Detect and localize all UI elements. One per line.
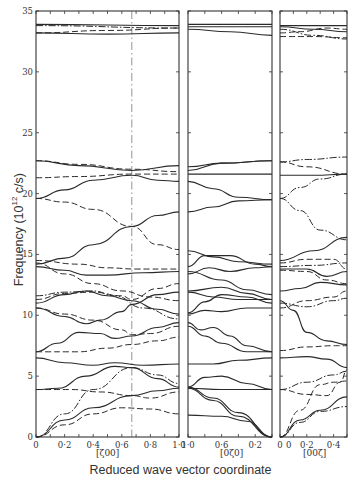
panel-label-00zeta: [00ζ] bbox=[303, 448, 326, 458]
panel-frame-0zeta0 bbox=[188, 11, 272, 437]
dispersion-branch-solid bbox=[188, 308, 272, 314]
phonon-dispersion-chart: 00·20·40·60·81·01·00·60·2000·20·40510152… bbox=[0, 0, 361, 486]
dispersion-branch-solid bbox=[188, 358, 272, 364]
dispersion-branch-solid bbox=[36, 175, 179, 198]
dispersion-branch-dashed bbox=[36, 198, 179, 249]
dispersion-branch-solid bbox=[188, 323, 272, 352]
dispersion-branch-solid bbox=[36, 212, 179, 264]
x-axis-label: Reduced wave vector coordinate bbox=[0, 463, 361, 477]
dispersion-branch-dashed bbox=[36, 337, 179, 352]
dispersion-branch-dashdot bbox=[280, 157, 347, 162]
x-tick-label: 0 bbox=[286, 440, 291, 450]
dispersion-branch-solid bbox=[188, 295, 272, 313]
dispersion-branch-solid bbox=[188, 388, 272, 389]
x-tick-label: 0 bbox=[33, 440, 38, 450]
x-tick-label: 0 bbox=[277, 440, 282, 450]
dispersion-branch-solid bbox=[36, 366, 179, 389]
y-tick-label: 35 bbox=[22, 6, 33, 16]
dispersion-branch-dashed bbox=[36, 308, 179, 335]
dispersion-branch-solid bbox=[188, 271, 272, 294]
panel-label-0zeta0: [0ζ0] bbox=[220, 448, 243, 458]
dispersion-branch-solid bbox=[188, 376, 272, 389]
dispersion-branch-dashed bbox=[280, 259, 347, 269]
x-tick-label: 1·0 bbox=[181, 440, 195, 450]
dispersion-branch-solid bbox=[280, 357, 347, 368]
dispersion-branch-solid bbox=[280, 397, 347, 437]
dispersion-branch-solid bbox=[36, 33, 179, 34]
dispersion-branch-solid bbox=[188, 29, 272, 35]
dispersion-branch-dashed bbox=[280, 162, 347, 174]
y-tick-label: 10 bbox=[22, 310, 33, 320]
x-tick-label: 0·4 bbox=[327, 440, 341, 450]
dispersion-branch-dashdot bbox=[280, 174, 347, 198]
x-tick-label: 0·8 bbox=[144, 440, 158, 450]
dispersion-branch-dashed bbox=[36, 261, 179, 270]
dispersion-branch-dashed bbox=[36, 174, 179, 178]
dispersion-branch-solid bbox=[280, 301, 347, 345]
dispersion-branch-solid bbox=[280, 282, 347, 291]
dispersion-branch-dashed bbox=[280, 270, 347, 283]
panel-label-zeta00: [ζ00] bbox=[96, 448, 119, 458]
dispersion-branch-solid bbox=[280, 27, 347, 32]
dispersion-branch-dashdot bbox=[280, 407, 347, 437]
dispersion-branch-dashed bbox=[36, 161, 179, 172]
dispersion-branch-dashed bbox=[280, 37, 347, 38]
dispersion-branch-dashed bbox=[280, 346, 347, 351]
dispersion-branch-solid bbox=[36, 292, 179, 324]
dispersion-branch-dashed bbox=[36, 28, 179, 33]
dispersion-branch-solid bbox=[36, 24, 179, 25]
dispersion-branch-solid bbox=[36, 388, 179, 437]
dispersion-branch-dashed bbox=[280, 370, 347, 396]
x-tick-label: 0·2 bbox=[58, 440, 72, 450]
x-tick-label: 0·2 bbox=[248, 440, 262, 450]
y-tick-label: 30 bbox=[22, 67, 33, 77]
dispersion-branch-solid bbox=[188, 200, 272, 212]
dispersion-branch-solid bbox=[188, 181, 272, 199]
y-tick-label: 25 bbox=[22, 128, 33, 138]
dispersion-branch-dashed bbox=[280, 291, 347, 308]
y-tick-label: 0 bbox=[28, 432, 33, 442]
panel-frame-zeta00 bbox=[36, 11, 179, 437]
panel-frame-00zeta bbox=[280, 11, 347, 437]
dispersion-branch-solid bbox=[36, 358, 179, 365]
dispersion-branch-dashdot bbox=[280, 371, 347, 389]
y-axis-label: Frequency (1012 c/s) bbox=[10, 160, 25, 300]
dispersion-branch-solid bbox=[188, 415, 272, 437]
dispersion-branch-dashdot bbox=[280, 263, 347, 267]
dispersion-branch-solid bbox=[188, 161, 272, 167]
y-tick-label: 5 bbox=[28, 371, 33, 381]
dispersion-branch-solid bbox=[280, 237, 347, 260]
dispersion-branch-solid bbox=[188, 267, 272, 274]
dispersion-branch-dashdot bbox=[280, 198, 347, 239]
dispersion-branch-solid bbox=[36, 323, 179, 352]
dispersion-branch-solid bbox=[188, 287, 272, 299]
